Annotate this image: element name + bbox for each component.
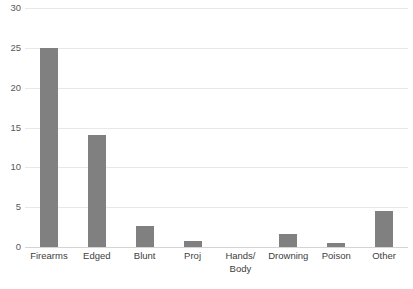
x-axis-category-label: Blunt	[134, 250, 156, 263]
y-axis-tick-label: 30	[0, 3, 21, 13]
bar-slot	[360, 8, 408, 247]
bar	[327, 243, 345, 247]
y-axis: 051015202530	[0, 0, 21, 289]
bar-slot	[217, 8, 265, 247]
x-axis-category-label: Hands/ Body	[225, 250, 255, 275]
bar-slot	[312, 8, 360, 247]
x-axis-category-label: Firearms	[30, 250, 67, 263]
bar	[40, 48, 58, 247]
bar	[279, 234, 297, 247]
bar	[136, 226, 154, 248]
y-axis-tick-label: 20	[0, 83, 21, 93]
plot-area	[25, 8, 408, 247]
bar-slot	[25, 8, 73, 247]
x-axis-category-label: Edged	[83, 250, 110, 263]
y-axis-tick-label: 25	[0, 43, 21, 53]
bar-slot	[264, 8, 312, 247]
y-axis-tick-label: 5	[0, 202, 21, 212]
bars-layer	[25, 8, 408, 247]
bar-slot	[73, 8, 121, 247]
bar	[375, 211, 393, 247]
x-axis-category-label: Proj	[184, 250, 201, 263]
bar-chart: 051015202530 FirearmsEdgedBluntProjHands…	[0, 0, 413, 289]
y-axis-tick-label: 15	[0, 123, 21, 133]
bar	[88, 135, 106, 247]
x-axis-category-label: Poison	[322, 250, 351, 263]
x-axis-category-label: Drowning	[268, 250, 308, 263]
bar-slot	[121, 8, 169, 247]
y-axis-tick-label: 0	[0, 242, 21, 252]
bar-slot	[169, 8, 217, 247]
x-axis-category-label: Other	[372, 250, 396, 263]
x-axis: FirearmsEdgedBluntProjHands/ BodyDrownin…	[25, 250, 408, 289]
y-axis-tick-label: 10	[0, 163, 21, 173]
bar	[184, 241, 202, 247]
axis-baseline	[25, 247, 408, 248]
